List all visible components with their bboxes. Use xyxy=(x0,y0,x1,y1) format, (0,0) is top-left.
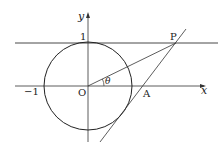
label-one: 1 xyxy=(80,31,86,42)
label-theta: θ xyxy=(105,76,111,86)
x-axis-label: x xyxy=(201,84,208,97)
angle-arc xyxy=(102,79,104,86)
tangent-line-pa xyxy=(100,29,186,142)
label-minus-one: −1 xyxy=(24,86,39,97)
label-point-p: P xyxy=(170,31,177,42)
label-origin: O xyxy=(78,87,86,98)
label-point-a: A xyxy=(142,88,151,99)
diagram-canvas: y x 1 −1 O P A θ xyxy=(0,0,218,151)
y-axis-arrow-icon xyxy=(86,12,90,18)
y-axis-label: y xyxy=(77,10,85,23)
